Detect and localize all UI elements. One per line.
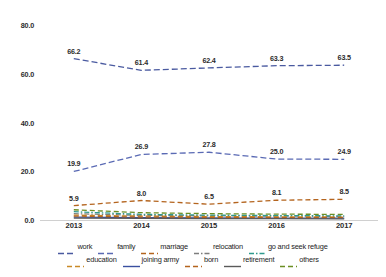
data-point-label: 5.9 [69, 194, 78, 203]
legend-swatch-icon [224, 256, 241, 263]
legend-label: go and seek refuge [268, 242, 328, 251]
legend-label: relocation [213, 242, 243, 251]
data-point-label: 63.3 [270, 54, 283, 63]
legend-item-born[interactable]: born [185, 255, 218, 264]
series-line-retirement [74, 218, 344, 219]
x-tick-label: 2016 [268, 221, 285, 230]
y-tick-label: 60.0 [21, 69, 34, 78]
series-line-others [74, 210, 344, 215]
y-tick-label: 80.0 [21, 21, 34, 30]
plot-area: 66.261.462.463.363.519.926.927.825.024.9… [40, 25, 378, 220]
legend-label: retirement [243, 255, 274, 264]
x-tick-label: 2017 [336, 221, 353, 230]
legend-item-work[interactable]: work [58, 242, 92, 251]
data-point-label: 24.9 [338, 147, 351, 156]
legend-label: family [117, 242, 135, 251]
legend-label: others [299, 255, 318, 264]
legend-swatch-icon [194, 243, 211, 250]
legend-swatch-icon [98, 243, 115, 250]
data-point-label: 62.4 [202, 56, 215, 65]
data-point-label: 6.5 [204, 192, 213, 201]
legend-label: born [204, 255, 218, 264]
data-point-label: 61.4 [135, 58, 148, 67]
legend-item-others[interactable]: others [280, 255, 318, 264]
data-point-label: 25.0 [270, 147, 283, 156]
y-tick-label: 20.0 [21, 167, 34, 176]
legend-item-joining-army[interactable]: joining army [123, 255, 179, 264]
x-tick-label: 2013 [66, 221, 83, 230]
data-point-label: 19.9 [67, 159, 80, 168]
line-chart: 0.020.040.060.080.0 66.261.462.463.363.5… [0, 0, 386, 277]
x-tick-label: 2015 [201, 221, 218, 230]
data-point-label: 8.1 [272, 188, 281, 197]
legend-swatch-icon [67, 256, 84, 263]
data-point-label: 27.8 [202, 140, 215, 149]
legend-item-family[interactable]: family [98, 242, 135, 251]
data-point-label: 8.5 [339, 187, 348, 196]
legend-swatch-icon [280, 256, 297, 263]
y-tick-label: 40.0 [21, 118, 34, 127]
legend-swatch-icon [185, 256, 202, 263]
legend-label: work [77, 242, 92, 251]
legend-swatch-icon [249, 243, 266, 250]
legend-label: joining army [142, 255, 179, 264]
legend-label: marriage [160, 242, 188, 251]
legend-item-marriage[interactable]: marriage [141, 242, 188, 251]
legend-row: workfamilymarriagerelocationgo and seek … [0, 240, 386, 253]
legend-swatch-icon [141, 243, 158, 250]
y-axis: 0.020.040.060.080.0 [0, 25, 36, 220]
x-tick-label: 2014 [133, 221, 150, 230]
data-point-label: 8.0 [137, 189, 146, 198]
data-point-label: 26.9 [135, 142, 148, 151]
legend-label: education [86, 255, 116, 264]
data-point-label: 66.2 [67, 47, 80, 56]
x-axis: 20132014201520162017 [40, 221, 378, 235]
legend-swatch-icon [123, 256, 140, 263]
y-tick-label: 0.0 [25, 216, 34, 225]
legend-swatch-icon [58, 243, 75, 250]
legend-item-relocation[interactable]: relocation [194, 242, 243, 251]
data-point-label: 63.5 [338, 53, 351, 62]
legend-item-retirement[interactable]: retirement [224, 255, 274, 264]
legend-item-education[interactable]: education [67, 255, 116, 264]
legend-item-go-and-seek-refuge[interactable]: go and seek refuge [249, 242, 328, 251]
series-lines [40, 25, 378, 220]
series-line-family [74, 152, 344, 171]
chart-legend: workfamilymarriagerelocationgo and seek … [0, 240, 386, 266]
